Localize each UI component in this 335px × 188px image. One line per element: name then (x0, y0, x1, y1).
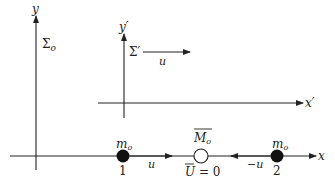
sigma-o-label: Σo (42, 37, 56, 53)
particle-2-dot (271, 150, 284, 163)
composite-mass-label: Mo (193, 131, 211, 146)
particle-2-index: 2 (273, 164, 281, 178)
frame-velocity-label: u (159, 55, 166, 68)
particle-1-velocity-label: u (148, 158, 155, 171)
composite-velocity-label: U = 0 (185, 165, 220, 179)
particle-2-velocity-label: −u (247, 158, 263, 171)
composite-circle (194, 149, 208, 163)
composite-particle: Mo U = 0 (185, 129, 220, 179)
particle-1-index: 1 (119, 164, 127, 178)
y-axis-label: y (31, 2, 39, 16)
frame-velocity-arrow: u (143, 52, 190, 68)
relativistic-collision-diagram: y Σo y′ Σ′ u x′ x mo 1 u Mo U = 0 (0, 0, 335, 188)
particle-2: mo 2 −u (231, 137, 288, 178)
y-prime-axis-label: y′ (118, 20, 129, 34)
diagram-svg: y Σo y′ Σ′ u x′ x mo 1 u Mo U = 0 (0, 0, 335, 188)
x-prime-axis-label: x′ (305, 96, 315, 110)
sigma-prime-label: Σ′ (129, 45, 140, 59)
particle-2-mass-label: mo (272, 137, 288, 152)
x-prime-axis: x′ (98, 96, 315, 110)
particle-1-mass-label: mo (116, 137, 132, 152)
x-axis-label: x (318, 149, 325, 163)
particle-1: mo 1 u (116, 137, 172, 178)
y-axis: y Σo (31, 2, 56, 170)
